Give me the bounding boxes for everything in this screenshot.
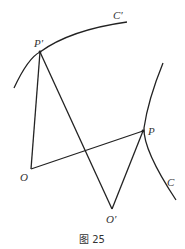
segment-o-p — [31, 131, 143, 169]
label-o: O — [20, 171, 28, 183]
label-c-prime: C′ — [113, 9, 123, 21]
label-p-prime: P′ — [33, 37, 44, 49]
point-p — [142, 130, 145, 133]
figure-caption: 图 25 — [79, 234, 105, 245]
label-o-prime: O′ — [106, 213, 117, 225]
point-p-prime — [39, 51, 42, 54]
segment-o-prime-p — [112, 131, 143, 209]
segment-p-prime-o-prime — [40, 52, 112, 209]
diagram: C′ P′ P C O O′ 图 25 — [0, 0, 185, 249]
label-p: P — [147, 125, 155, 137]
curve-c-prime — [14, 22, 127, 88]
label-c: C — [167, 176, 175, 188]
segment-p-prime-o — [31, 52, 40, 169]
